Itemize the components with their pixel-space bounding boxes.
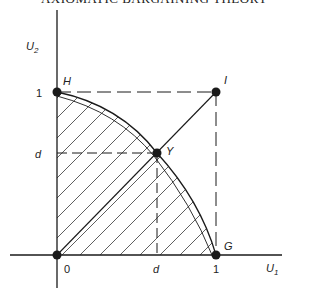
y-tick-1: 1 [36, 87, 42, 99]
label-I: I [224, 74, 227, 86]
label-H: H [63, 75, 71, 87]
origin-label: 0 [64, 263, 70, 275]
label-Y: Y [166, 145, 174, 157]
x-tick-d: d [153, 263, 160, 275]
point-Y [153, 149, 162, 158]
point-I [212, 88, 221, 97]
point-origin [53, 251, 62, 260]
diagonal-line [57, 92, 216, 255]
x-tick-1: 1 [213, 263, 219, 275]
label-G: G [224, 240, 233, 252]
x-axis-label: U1 [266, 262, 278, 277]
y-axis-label: U2 [26, 40, 39, 55]
point-G [212, 251, 221, 260]
y-tick-d: d [35, 148, 42, 160]
point-H [53, 88, 62, 97]
bargaining-diagram: U2 U1 1 d 0 d 1 H I Y G [0, 0, 309, 293]
